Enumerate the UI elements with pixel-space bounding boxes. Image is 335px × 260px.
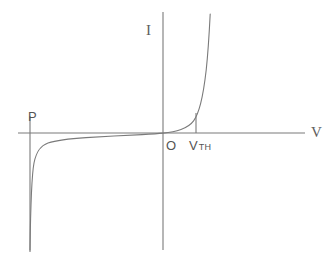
origin-label: O: [166, 139, 176, 152]
diode-iv-curve: [30, 14, 210, 250]
threshold-voltage-subscript: TH: [199, 142, 212, 152]
threshold-voltage-label: VTH: [189, 139, 211, 152]
diode-iv-characteristic-figure: I V O P VTH: [0, 0, 335, 260]
voltage-axis-label: V: [311, 125, 322, 140]
threshold-voltage-symbol: V: [189, 138, 198, 153]
current-axis-label: I: [146, 23, 151, 38]
breakdown-point-label: P: [28, 110, 37, 123]
plot-canvas: [0, 0, 335, 260]
